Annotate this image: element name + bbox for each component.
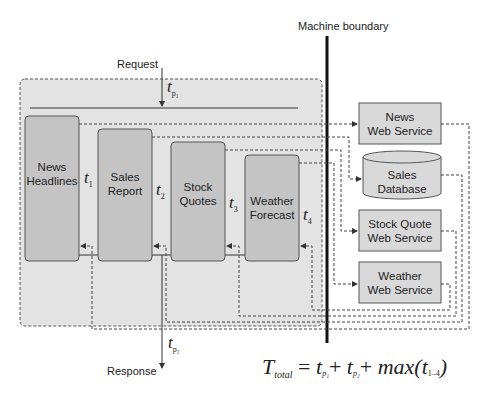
t1-label: t1 [84, 168, 93, 189]
request-label: Request [117, 58, 158, 70]
t4-label: t4 [303, 205, 312, 226]
component-sales-report-label: SalesReport [98, 170, 152, 198]
component-weather-forecast-label: WeatherForecast [245, 194, 299, 222]
total-time-formula: Ttotal = tp₁+ tp₂+ max(t1–4) [262, 354, 447, 380]
component-stock-quotes-label: StockQuotes [171, 180, 225, 208]
t2-label: t2 [156, 180, 165, 201]
t3-label: t3 [229, 193, 238, 214]
tp2-label: tp₂ [168, 333, 180, 354]
component-news-headlines-label: NewsHeadlines [25, 160, 79, 188]
machine-boundary-label: Machine boundary [298, 20, 389, 32]
service-sales-database-label: SalesDatabase [363, 168, 441, 196]
component-news-headlines [25, 116, 79, 261]
service-stock-quote-web-service-label: Stock QuoteWeb Service [359, 217, 441, 245]
service-news-web-service-label: NewsWeb Service [359, 110, 441, 138]
tp1-label: tp₁ [167, 77, 179, 98]
service-weather-web-service-label: WeatherWeb Service [359, 269, 441, 297]
response-label: Response [107, 365, 157, 377]
